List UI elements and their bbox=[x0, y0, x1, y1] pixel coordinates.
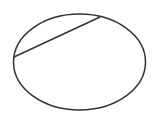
ellipse-shape bbox=[14, 14, 146, 110]
chord-line bbox=[14, 17, 100, 57]
diagram-canvas bbox=[0, 0, 155, 127]
